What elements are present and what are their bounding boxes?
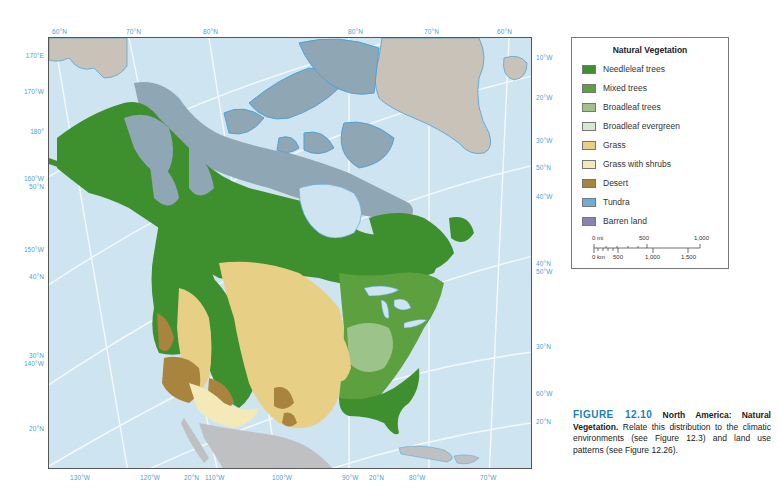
legend-item-broadleaf-evergreen: Broadleaf evergreen <box>582 120 680 132</box>
scale-label-km: 1,000 <box>645 254 660 260</box>
coord-label: 10°W <box>536 54 552 61</box>
coord-label: 50°N <box>536 164 551 171</box>
coord-label: 20°N <box>536 418 551 425</box>
legend-swatch <box>582 65 596 74</box>
legend-swatch <box>582 141 596 150</box>
legend-swatch <box>582 198 596 207</box>
legend-item-desert: Desert <box>582 177 628 189</box>
legend-label: Needleleaf trees <box>603 64 665 74</box>
legend-label: Tundra <box>603 197 630 207</box>
coord-label: 30°W <box>536 137 552 144</box>
coord-label: 140°W <box>0 360 44 367</box>
coord-label: 130°W <box>70 474 90 481</box>
coord-label: 60°N <box>52 28 67 35</box>
coord-label: 40°N <box>536 260 551 267</box>
legend-item-grass: Grass <box>582 139 626 151</box>
scale-label-km: 1,500 <box>681 254 696 260</box>
legend-swatch <box>582 84 596 93</box>
legend-swatch <box>582 103 596 112</box>
legend-label: Desert <box>603 178 628 188</box>
coord-label: 150°W <box>0 246 44 253</box>
vegetation-map <box>48 37 532 469</box>
legend-item-tundra: Tundra <box>582 196 630 208</box>
coord-label: 20°N <box>184 474 199 481</box>
eastern-broadleaf-forest <box>347 323 393 372</box>
legend-item-grass-with-shrubs: Grass with shrubs <box>582 158 671 170</box>
coord-label: 70°N <box>424 28 439 35</box>
coord-label: 30°N <box>0 352 44 359</box>
legend-label: Grass <box>603 140 626 150</box>
legend-item-barren-land: Barren land <box>582 215 647 227</box>
legend-swatch <box>582 122 596 131</box>
scale-label-km: 0 km <box>592 254 605 260</box>
coord-label: 60°W <box>536 390 552 397</box>
figure-caption: FIGURE 12.10 North America: Natural Vege… <box>573 409 771 456</box>
coord-label: 80°N <box>203 28 218 35</box>
map-graphic <box>49 38 532 469</box>
coord-label: 80°N <box>348 28 363 35</box>
legend-swatch <box>582 217 596 226</box>
coord-label: 110°W <box>205 474 225 481</box>
coord-label: 70°N <box>126 28 141 35</box>
coord-label: 30°N <box>536 343 551 350</box>
legend-label: Broadleaf evergreen <box>603 121 680 131</box>
scale-label-mi: 1,000 <box>694 235 709 241</box>
legend-label: Barren land <box>603 216 647 226</box>
coord-label: 50°W <box>536 268 552 275</box>
legend-label: Broadleaf trees <box>603 102 661 112</box>
coord-label: 170°W <box>0 88 44 95</box>
legend-item-mixed-trees: Mixed trees <box>582 82 647 94</box>
coord-label: 120°W <box>140 474 160 481</box>
figure-number: FIGURE 12.10 <box>573 409 652 420</box>
coord-label: 100°W <box>272 474 292 481</box>
map-legend: Natural Vegetation Needleleaf trees Mixe… <box>571 37 729 269</box>
coord-label: 20°N <box>369 474 384 481</box>
coord-label: 20°W <box>536 94 552 101</box>
legend-swatch <box>582 160 596 169</box>
coord-label: 170°E <box>0 52 44 59</box>
legend-title: Natural Vegetation <box>572 45 728 55</box>
legend-item-needleleaf-trees: Needleleaf trees <box>582 63 665 75</box>
legend-swatch <box>582 179 596 188</box>
coord-label: 160°W <box>0 175 44 182</box>
coord-label: 60°N <box>497 28 512 35</box>
coord-label: 50°N <box>0 183 44 190</box>
scale-label-mi: 0 mi <box>592 235 603 241</box>
scale-label-km: 500 <box>613 254 623 260</box>
coord-label: 80°W <box>409 474 425 481</box>
scale-label-mi: 500 <box>639 235 649 241</box>
coord-label: 40°N <box>0 273 44 280</box>
legend-label: Mixed trees <box>603 83 647 93</box>
coord-label: 20°N <box>0 425 44 432</box>
legend-item-broadleaf-trees: Broadleaf trees <box>582 101 661 113</box>
coord-label: 180° <box>0 128 44 135</box>
coord-label: 90°W <box>342 474 358 481</box>
legend-label: Grass with shrubs <box>603 159 671 169</box>
coord-label: 70°W <box>480 474 496 481</box>
scale-bar: 0 mi 500 1,000 0 km 500 1,000 1,500 <box>590 235 710 265</box>
coord-label: 40°W <box>536 193 552 200</box>
